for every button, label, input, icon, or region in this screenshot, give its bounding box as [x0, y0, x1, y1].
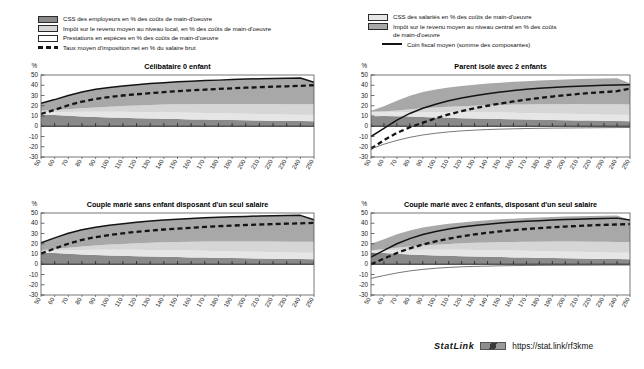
x-tick-label: 160 — [181, 295, 192, 308]
statlink-barcode-icon — [480, 342, 506, 350]
x-tick-label: 110 — [113, 295, 124, 307]
legend-solid-line-icon — [382, 43, 402, 45]
x-tick-label: 130 — [140, 157, 151, 170]
x-tick-label: 240 — [607, 157, 618, 170]
x-tick-label: 120 — [451, 157, 462, 170]
legend-label-local-income-tax: Impôt sur le revenu moyen au niveau loca… — [63, 25, 271, 33]
x-tick-label: 200 — [555, 157, 566, 170]
x-tick-label: 150 — [167, 295, 178, 308]
x-tick-label: 150 — [490, 157, 501, 170]
x-tick-label: 120 — [126, 295, 137, 308]
y-tick-label: 10 — [31, 112, 39, 119]
x-tick-label: 210 — [568, 295, 579, 308]
x-tick-label: 170 — [195, 157, 206, 170]
y-tick-label: 20 — [31, 240, 39, 247]
y-axis-unit-label: % — [31, 200, 37, 207]
chart-panel-couple-marie-2-enfants: Couple marié avec 2 enfants, disposant d… — [344, 200, 640, 325]
legend-label-central-income-tax: Impôt sur le revenu moyen au niveau cent… — [393, 23, 557, 40]
chart-svg: Couple marié avec 2 enfants, disposant d… — [344, 200, 640, 325]
x-tick-label: 200 — [235, 295, 246, 308]
x-tick-label: 250 — [304, 157, 315, 170]
x-tick-label: 220 — [263, 157, 274, 170]
legend-item-employer-ssc: CSS des employeurs en % des coûts de mai… — [38, 15, 330, 23]
y-tick-label: 30 — [361, 92, 369, 99]
legend-item-tax-wedge: Coin fiscal moyen (somme des composantes… — [382, 41, 640, 49]
y-tick-label: 30 — [361, 230, 369, 237]
x-tick-label: 120 — [451, 295, 462, 308]
x-tick-label: 110 — [439, 157, 450, 169]
x-tick-label: 160 — [181, 157, 192, 170]
legend-item-central-income-tax: Impôt sur le revenu moyen au niveau cent… — [368, 23, 640, 40]
chart-svg: Parent isolé avec 2 enfants%-30-20-10010… — [344, 62, 640, 187]
statlink-url[interactable]: https://stat.link/rf3kme — [512, 341, 593, 351]
y-tick-label: 50 — [361, 209, 369, 216]
y-tick-label: -20 — [359, 143, 369, 150]
x-tick-label: 220 — [581, 295, 592, 308]
x-tick-label: 230 — [276, 157, 287, 170]
x-tick-label: 220 — [263, 295, 274, 308]
x-tick-label: 210 — [568, 157, 579, 170]
y-tick-label: 0 — [34, 122, 38, 129]
y-tick-label: 40 — [31, 219, 39, 226]
legend-label-employer-ssc: CSS des employeurs en % des coûts de mai… — [63, 15, 212, 23]
x-tick-label: 140 — [477, 295, 488, 308]
legend-swatch-cash-benefits — [38, 35, 58, 42]
x-tick-label: 250 — [620, 295, 631, 308]
legend-swatch-employee-ssc — [368, 14, 388, 21]
x-tick-label: 140 — [154, 295, 165, 308]
x-tick-label: 100 — [425, 295, 436, 308]
chart-title: Parent isolé avec 2 enfants — [454, 62, 546, 71]
x-tick-label: 120 — [126, 157, 137, 170]
x-tick-label: 140 — [154, 157, 165, 170]
y-tick-label: 0 — [364, 122, 368, 129]
y-tick-label: 40 — [31, 81, 39, 88]
y-tick-label: 40 — [361, 219, 369, 226]
chart-svg: Couple marié sans enfant disposant d'un … — [14, 200, 324, 325]
y-tick-label: 30 — [31, 92, 39, 99]
y-tick-label: 20 — [361, 240, 369, 247]
legend-right: CSS des salariés en % des coûts de main-… — [368, 13, 640, 50]
x-tick-label: 170 — [516, 157, 527, 170]
figure-root: CSS des employeurs en % des coûts de mai… — [0, 0, 644, 369]
legend-label-net-average-tax-rate: Taux moyen d'imposition net en % du sala… — [63, 44, 196, 52]
x-tick-label: 150 — [167, 157, 178, 170]
y-tick-label: -10 — [359, 271, 369, 278]
y-axis-unit-label: % — [361, 200, 367, 207]
x-tick-label: 110 — [113, 157, 124, 169]
chart-title: Couple marié sans enfant disposant d'un … — [87, 200, 268, 209]
x-tick-label: 240 — [290, 157, 301, 170]
chart-panel-celibataire-0-enfant: Célibataire 0 enfant%-30-20-100102030405… — [14, 62, 324, 187]
x-tick-label: 160 — [503, 295, 514, 308]
x-tick-label: 100 — [99, 295, 110, 308]
x-tick-label: 190 — [222, 295, 233, 308]
legend-item-cash-benefits: Prestations en espèces en % des coûts de… — [38, 34, 330, 42]
x-tick-label: 100 — [425, 157, 436, 170]
chart-panel-couple-marie-sans-enfant: Couple marié sans enfant disposant d'un … — [14, 200, 324, 325]
legend-item-local-income-tax: Impôt sur le revenu moyen au niveau loca… — [38, 25, 330, 33]
x-tick-label: 240 — [290, 295, 301, 308]
x-tick-label: 220 — [581, 157, 592, 170]
statlink-label: StatLink — [434, 341, 474, 351]
chart-panel-parent-isole-2-enfants: Parent isolé avec 2 enfants%-30-20-10010… — [344, 62, 640, 187]
x-tick-label: 250 — [620, 157, 631, 170]
x-tick-label: 230 — [594, 295, 605, 308]
y-tick-label: -20 — [359, 281, 369, 288]
legend-item-employee-ssc: CSS des salariés en % des coûts de main-… — [368, 13, 640, 21]
x-tick-label: 170 — [195, 295, 206, 308]
y-tick-label: 40 — [361, 81, 369, 88]
x-tick-label: 180 — [529, 295, 540, 308]
y-tick-label: -20 — [29, 281, 39, 288]
x-tick-label: 190 — [542, 157, 553, 170]
legend-dashed-line-icon — [38, 46, 58, 49]
x-tick-label: 130 — [464, 295, 475, 308]
x-tick-label: 200 — [555, 295, 566, 308]
legend-label-employee-ssc: CSS des salariés en % des coûts de main-… — [393, 13, 532, 21]
y-axis-unit-label: % — [31, 62, 37, 69]
y-tick-label: -10 — [359, 133, 369, 140]
y-tick-label: 20 — [31, 102, 39, 109]
y-tick-label: 50 — [31, 209, 39, 216]
x-tick-label: 200 — [235, 157, 246, 170]
legend-swatch-employer-ssc — [38, 16, 58, 23]
y-tick-label: 10 — [31, 250, 39, 257]
x-tick-label: 240 — [607, 295, 618, 308]
